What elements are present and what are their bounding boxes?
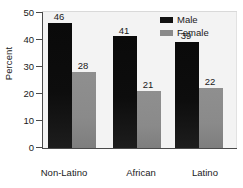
bar-value-female-non-latino-white: 28 bbox=[71, 61, 95, 71]
legend-item-female: Female bbox=[160, 27, 209, 39]
x-axis-group-line1: Latino bbox=[192, 167, 218, 178]
legend-label-female: Female bbox=[177, 28, 209, 38]
y-axis-label-0: 0 bbox=[8, 143, 34, 153]
bar-male-african-american bbox=[113, 36, 137, 148]
x-axis-group-line1: Non-Latino bbox=[41, 167, 87, 178]
x-axis-group-label-non-latino-white: Non-Latino White bbox=[24, 155, 104, 188]
legend-label-male: Male bbox=[177, 15, 198, 25]
legend-swatch-female-icon bbox=[160, 30, 173, 36]
bar-chart: Percent 50 40 30 20 10 0 46 28 41 21 39 … bbox=[0, 0, 243, 188]
bar-male-latino bbox=[175, 42, 199, 148]
plot-right-border bbox=[236, 12, 237, 148]
bar-value-male-african-american: 41 bbox=[112, 26, 136, 36]
y-axis-label-50: 50 bbox=[8, 8, 34, 18]
y-axis-label-30: 30 bbox=[8, 62, 34, 72]
y-axis-label-40: 40 bbox=[8, 35, 34, 45]
y-axis-label-10: 10 bbox=[8, 116, 34, 126]
bar-value-female-african-american: 21 bbox=[136, 80, 160, 90]
y-axis-label-20: 20 bbox=[8, 89, 34, 99]
bar-value-male-non-latino-white: 46 bbox=[47, 12, 71, 22]
bar-male-non-latino-white bbox=[48, 23, 72, 148]
x-axis-group-label-latino: Latino bbox=[176, 155, 234, 178]
bar-value-female-latino: 22 bbox=[198, 77, 222, 87]
bar-female-african-american bbox=[137, 91, 161, 148]
legend-item-male: Male bbox=[160, 14, 209, 26]
legend: Male Female bbox=[160, 14, 209, 40]
legend-swatch-male-icon bbox=[160, 17, 173, 23]
bar-female-latino bbox=[199, 88, 223, 148]
bar-female-non-latino-white bbox=[72, 72, 96, 148]
x-axis-group-label-african-american: African American bbox=[105, 155, 177, 188]
x-axis-group-line1: African bbox=[126, 167, 156, 178]
